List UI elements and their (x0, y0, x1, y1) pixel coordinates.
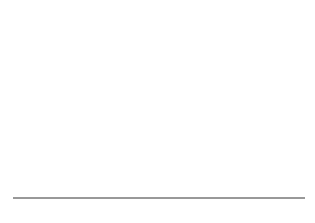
gaussian-chart (0, 0, 315, 223)
